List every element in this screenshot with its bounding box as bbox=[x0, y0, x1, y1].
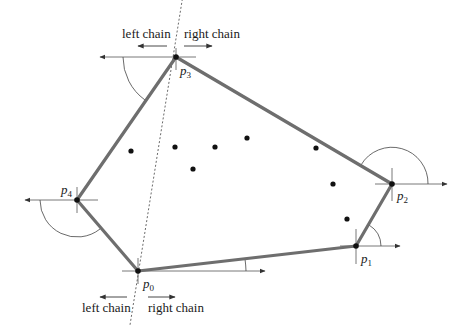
label-p0: p0 bbox=[142, 276, 155, 293]
vertex-p3 bbox=[173, 54, 179, 60]
vertex-p4 bbox=[74, 197, 80, 203]
reference-axes bbox=[25, 48, 447, 284]
label-p2: p2 bbox=[396, 188, 408, 205]
edge-p3-p4 bbox=[77, 57, 176, 200]
vertex-p2 bbox=[389, 181, 395, 187]
label-p1: p1 bbox=[360, 251, 372, 268]
bottom-right-chain-label: right chain bbox=[148, 300, 204, 315]
hull-vertices bbox=[74, 54, 395, 274]
edge-p0-p1 bbox=[138, 246, 356, 271]
edge-p2-p3 bbox=[176, 57, 392, 184]
diagram-canvas: p0 p1 p2 p3 p4 left chain right chain le… bbox=[0, 0, 469, 331]
vertex-p0 bbox=[135, 268, 141, 274]
angle-arcs bbox=[40, 57, 428, 271]
bottom-left-chain-label: left chain bbox=[82, 300, 131, 315]
interior-points bbox=[128, 135, 349, 221]
vertex-p1 bbox=[353, 243, 359, 249]
top-right-chain-label: right chain bbox=[184, 26, 240, 41]
hull-edges bbox=[77, 57, 392, 271]
convex-hull-diagram: p0 p1 p2 p3 p4 left chain right chain le… bbox=[0, 0, 469, 331]
label-p4: p4 bbox=[60, 182, 73, 199]
top-left-chain-label: left chain bbox=[122, 26, 171, 41]
edge-p1-p2 bbox=[356, 184, 392, 246]
